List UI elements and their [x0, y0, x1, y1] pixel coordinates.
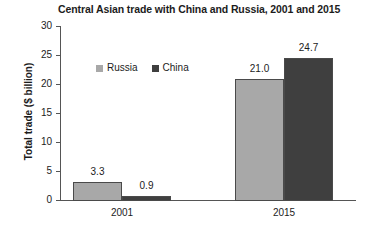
- y-tick-label: 10: [20, 137, 52, 147]
- y-tick-label: 30: [20, 21, 52, 31]
- y-tick-label: 5: [20, 166, 52, 176]
- y-tick-label: 20: [20, 79, 52, 89]
- bar-russia-2015: [235, 79, 284, 201]
- y-tick-label: 0: [20, 195, 52, 205]
- bar-value-russia-2001: 3.3: [67, 167, 128, 177]
- y-tick-label: 15: [20, 108, 52, 118]
- chart-title: Central Asian trade with China and Russi…: [58, 3, 368, 15]
- bar-value-russia-2015: 21.0: [229, 64, 290, 74]
- bar-china-2001: [122, 196, 171, 201]
- bar-china-2015: [284, 58, 333, 201]
- x-category-label-2015: 2015: [235, 207, 333, 218]
- bar-value-china-2015: 24.7: [278, 43, 339, 53]
- x-category-label-2001: 2001: [73, 207, 171, 218]
- y-tick-label: 25: [20, 50, 52, 60]
- bar-value-china-2001: 0.9: [116, 181, 177, 191]
- bar-chart: Central Asian trade with China and Russi…: [0, 0, 374, 242]
- bar-russia-2001: [73, 182, 122, 201]
